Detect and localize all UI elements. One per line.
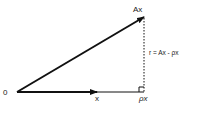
right-angle-mark: [139, 87, 144, 92]
projection-label: ρx: [138, 94, 149, 103]
ax-label: Ax: [133, 5, 142, 14]
ax-vector-arrow: [17, 17, 144, 92]
origin-label: 0: [3, 88, 8, 97]
x-label: x: [95, 94, 99, 103]
projection-diagram: 0 Ax x ρx r = Ax - ρx: [0, 0, 199, 115]
residual-label: r = Ax - ρx: [149, 49, 179, 57]
